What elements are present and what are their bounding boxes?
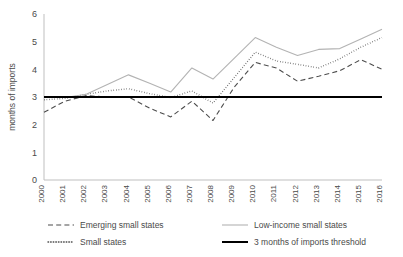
x-tick-label: 2002 [79,184,88,202]
x-tick-label: 2010 [248,184,257,202]
x-tick-label: 2000 [37,184,46,202]
series-line-small-states [44,38,382,104]
legend-label: Low-income small states [254,220,347,230]
x-tick-label: 2004 [122,184,131,202]
x-axis-tick-labels: 2000200120022003200420052006200720082009… [37,184,384,202]
line-chart: months of imports 0123456 20002001200220… [0,0,403,257]
y-tick-label: 2 [32,120,37,130]
x-tick-label: 2015 [354,184,363,202]
y-axis-title: months of imports [7,63,17,131]
y-axis-label: months of imports [7,63,17,131]
data-series-group [44,29,382,120]
legend-label: 3 months of imports threshold [254,237,366,247]
y-axis-tick-labels: 0123456 [32,9,37,185]
legend-label: Small states [80,237,126,247]
x-tick-label: 2016 [375,184,384,202]
x-tick-label: 2003 [100,184,109,202]
x-tick-label: 2006 [164,184,173,202]
y-tick-label: 5 [32,37,37,47]
y-tick-label: 4 [32,65,37,75]
y-tick-label: 1 [32,148,37,158]
chart-legend: Emerging small statesLow-income small st… [48,220,366,247]
y-tick-label: 6 [32,9,37,19]
x-tick-label: 2008 [206,184,215,202]
x-tick-label: 2011 [269,184,278,202]
x-tick-label: 2013 [312,184,321,202]
x-tick-label: 2005 [143,184,152,202]
x-tick-label: 2009 [227,184,236,202]
y-tick-label: 0 [32,175,37,185]
chart-container: months of imports 0123456 20002001200220… [0,0,403,257]
x-tick-label: 2014 [333,184,342,202]
series-line-low-income-small-states [44,29,382,97]
legend-label: Emerging small states [80,220,164,230]
x-tick-label: 2007 [185,184,194,202]
y-tick-label: 3 [32,92,37,102]
x-tick-label: 2012 [291,184,300,202]
x-tick-label: 2001 [58,184,67,202]
